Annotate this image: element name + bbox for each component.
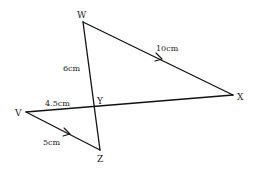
measure-label-vz: 5cm [43, 138, 61, 147]
triangle-diagram: W X V Z Y 10cm 6cm 4.5cm 5cm [0, 0, 257, 175]
vertex-label-y: Y [96, 96, 104, 106]
measure-label-vy: 4.5cm [45, 99, 70, 108]
measure-label-wx: 10cm [156, 44, 179, 53]
vertex-label-w: W [77, 10, 87, 20]
segment-vz [26, 112, 100, 150]
vertex-label-z: Z [97, 154, 103, 164]
vertex-label-x: X [237, 92, 244, 102]
vertex-label-v: V [14, 108, 22, 118]
measure-label-wy: 6cm [63, 64, 81, 73]
segment-wz [83, 22, 100, 150]
segment-wx [83, 22, 233, 95]
